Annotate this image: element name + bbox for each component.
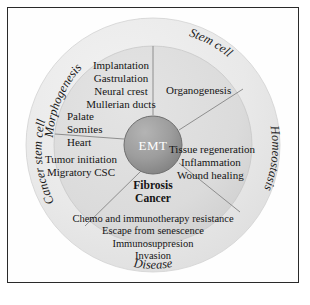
- emt-wheel-diagram: EMT Morphogenesis Stem cell Homeostasis …: [19, 11, 287, 279]
- wheel-graphics: EMT Morphogenesis Stem cell Homeostasis …: [19, 11, 287, 279]
- outer-label-disease: Disease: [132, 256, 174, 272]
- figure-frame: EMT Morphogenesis Stem cell Homeostasis …: [7, 7, 299, 283]
- emt-core-label: EMT: [138, 138, 167, 153]
